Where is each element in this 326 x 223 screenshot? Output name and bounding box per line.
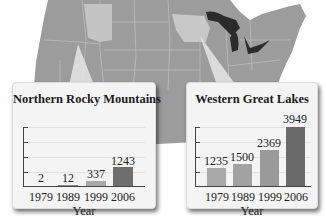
value-label: 337 <box>76 167 116 182</box>
chart-title: Northern Rocky Mountains <box>13 92 155 107</box>
bar-1979 <box>207 168 226 186</box>
chart-title: Western Great Lakes <box>187 92 317 107</box>
chart-panel-1: Northern Rocky Mountains 2 12 337 1243 1… <box>12 82 156 209</box>
x-tick-label: 2006 <box>103 190 143 205</box>
chart-panel-2: Western Great Lakes 1235 1500 2369 3949 … <box>186 82 318 209</box>
x-tick-label: 2006 <box>276 190 316 205</box>
x-axis <box>23 186 145 187</box>
plot-area: 1235 1500 2369 3949 <box>195 127 311 187</box>
bar-2006 <box>113 167 133 186</box>
plot-area: 2 12 337 1243 <box>23 127 145 187</box>
value-label: 2369 <box>249 136 289 151</box>
x-axis-label: Year <box>13 205 155 218</box>
x-axis-label: Year <box>187 205 317 218</box>
bar-1999 <box>260 150 279 186</box>
value-label: 1243 <box>103 154 143 169</box>
x-axis <box>195 186 311 187</box>
rocky-region <box>84 4 112 42</box>
value-label: 1500 <box>222 150 262 165</box>
value-label: 3949 <box>275 112 315 127</box>
